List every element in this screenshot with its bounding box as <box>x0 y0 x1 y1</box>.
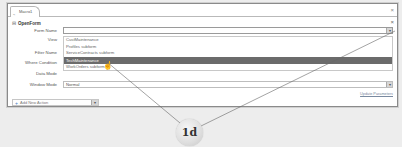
list-item-selected[interactable]: TechMaintenance <box>64 57 392 64</box>
tab-label: Macro1 <box>19 9 32 14</box>
openform-header[interactable]: ⊟OpenForm <box>12 21 41 26</box>
callout-badge: 1d <box>176 119 203 146</box>
plus-icon: + <box>15 100 18 106</box>
tab-macro1[interactable]: ⌁ Macro1 <box>10 6 40 17</box>
delete-action-icon[interactable]: × <box>390 19 394 25</box>
view-label: View <box>48 37 57 42</box>
mouse-pointer-icon: ☝ <box>103 61 113 70</box>
close-tab-icon[interactable]: × <box>390 6 394 14</box>
filter-name-label: Filter Name <box>35 50 57 55</box>
macro-icon: ⌁ <box>13 10 15 20</box>
list-item[interactable]: WorkOrders subform <box>64 64 392 71</box>
collapse-icon[interactable]: ⊟ <box>12 21 16 26</box>
stage: ⌁ Macro1 × ⊟OpenForm × Form Name ▾ View … <box>0 0 402 147</box>
chevron-down-icon[interactable]: ▾ <box>386 28 392 33</box>
window-mode-combobox[interactable]: Normal ▾ <box>63 81 393 88</box>
chevron-down-icon[interactable]: ▾ <box>386 82 392 87</box>
macro-designer-window: ⌁ Macro1 × ⊟OpenForm × Form Name ▾ View … <box>7 3 398 107</box>
add-new-action-combobox[interactable]: + Add New Action ▾ <box>12 99 99 106</box>
form-name-combobox[interactable]: ▾ <box>63 27 393 34</box>
where-condition-label: Where Condition <box>25 60 57 65</box>
window-mode-value: Normal <box>66 82 80 87</box>
add-action-placeholder: Add New Action <box>20 100 48 105</box>
action-title: OpenForm <box>18 21 41 26</box>
chevron-down-icon[interactable]: ▾ <box>91 100 98 105</box>
data-mode-label: Data Mode <box>36 71 57 76</box>
tab-bar: ⌁ Macro1 × <box>8 4 397 17</box>
window-mode-label: Window Mode <box>30 82 57 87</box>
update-parameters-link[interactable]: Update Parameters <box>360 92 393 96</box>
form-name-label: Form Name <box>34 28 57 33</box>
